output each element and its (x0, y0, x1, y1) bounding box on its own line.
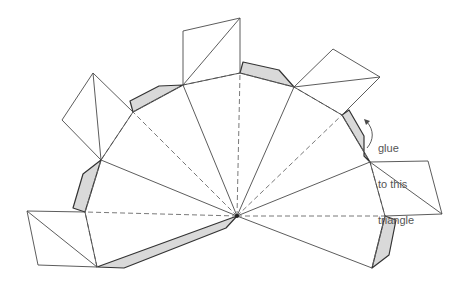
annotation-line-3: triangle (378, 214, 414, 226)
center-vertex (235, 214, 239, 218)
annotation-line-2: to this (378, 178, 414, 190)
outer-face-left (62, 73, 133, 160)
glue-tab-top (240, 62, 294, 87)
glue-tabs (73, 62, 396, 268)
curved-arrow-icon (367, 122, 372, 148)
cut-lines (101, 85, 372, 268)
glue-tab-bottom-left (97, 216, 237, 268)
annotation-line-1: glue (378, 142, 414, 154)
glue-annotation: glue to this triangle (378, 118, 414, 238)
